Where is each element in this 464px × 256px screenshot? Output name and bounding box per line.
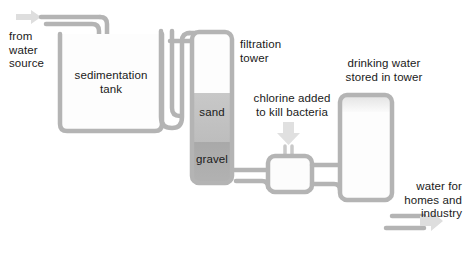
label-sedimentation-tank: sedimentation tank (60, 69, 162, 96)
chlorine-injection-arrow-icon (277, 122, 300, 145)
label-water-source: from water source (9, 30, 44, 71)
label-storage-tower: drinking water stored in tower (320, 57, 448, 84)
label-gravel-layer: gravel (190, 153, 234, 167)
label-chlorine-addition: chlorine added to kill bacteria (238, 92, 346, 119)
storage-tower (340, 95, 392, 200)
chlorination-to-storage-pipe (312, 165, 340, 190)
label-distribution-output: water for homes and industry (386, 180, 462, 221)
label-sand-layer: sand (192, 106, 232, 120)
label-filtration-tower: filtration tower (240, 38, 281, 65)
chlorination-chamber (268, 156, 312, 192)
water-treatment-diagram: from water source sedimentation tank fil… (0, 0, 464, 256)
inlet-flow-arrow-icon (16, 10, 41, 24)
filtration-to-chlorination-pipe (232, 170, 268, 187)
